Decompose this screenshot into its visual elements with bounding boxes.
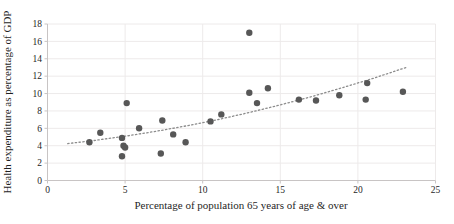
data-point [364,80,370,86]
y-tick-label: 2 [37,158,42,168]
trendline-layer [68,67,408,144]
y-axis-title: Health expenditure as percentage of GDP [1,11,13,194]
data-point [119,135,125,141]
data-point [207,118,213,124]
data-point [136,125,142,131]
tick-label-layer: 0246810121416180510152025 [33,19,441,195]
data-point [86,139,92,145]
x-tick-label: 15 [276,185,286,195]
trend-line [68,67,408,144]
data-point [182,139,188,145]
data-point [122,144,128,150]
chart-canvas: 0246810121416180510152025 Percentage of … [0,0,454,224]
x-tick-label: 20 [353,185,363,195]
x-axis-title: Percentage of population 65 years of age… [134,199,348,211]
y-tick-label: 12 [33,71,43,81]
y-tick-label: 4 [37,141,42,151]
x-tick-label: 10 [198,185,208,195]
data-point [336,92,342,98]
x-tick-label: 0 [45,185,50,195]
data-point [124,100,130,106]
data-point [170,131,176,137]
data-point [254,100,260,106]
data-point [246,30,252,36]
axis-layer [45,24,436,184]
data-point [296,96,302,102]
data-point [218,111,224,117]
data-point [159,117,165,123]
data-point [246,90,252,96]
data-point [265,85,271,91]
y-tick-label: 0 [37,176,42,186]
data-point [119,153,125,159]
y-tick-label: 6 [37,124,42,134]
x-tick-label: 25 [431,185,441,195]
x-tick-label: 5 [123,185,128,195]
data-point [400,89,406,95]
y-tick-label: 8 [37,106,42,116]
data-point [363,96,369,102]
data-point [158,150,164,156]
y-tick-label: 14 [33,54,43,64]
data-point [313,97,319,103]
gridline-layer [48,24,436,181]
y-tick-label: 18 [33,19,43,29]
data-point [97,130,103,136]
y-tick-label: 16 [33,37,43,47]
y-tick-label: 10 [33,89,43,99]
scatter-chart: 0246810121416180510152025 Percentage of … [0,0,454,224]
